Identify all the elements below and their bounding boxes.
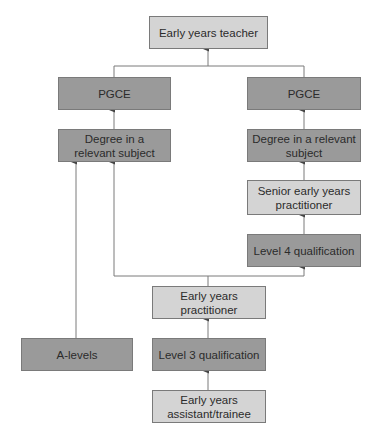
node-a-levels: A-levels <box>21 338 133 371</box>
connector-layer <box>0 0 379 445</box>
edge-practitioner-split <box>114 162 208 286</box>
node-pgce-right: PGCE <box>247 77 361 110</box>
edge-pgce-to-teacher <box>114 66 304 77</box>
node-early-years-practitioner: Early years practitioner <box>152 286 266 319</box>
node-degree-right: Degree in a relevant subject <box>247 129 361 162</box>
node-level4: Level 4 qualification <box>247 234 361 267</box>
node-degree-left: Degree in a relevant subject <box>58 129 171 162</box>
node-assistant-trainee: Early years assistant/trainee <box>152 390 266 423</box>
node-level3: Level 3 qualification <box>152 338 266 371</box>
node-early-years-teacher: Early years teacher <box>149 16 268 49</box>
edge-practitioner-to-level4 <box>208 267 304 276</box>
node-pgce-left: PGCE <box>58 77 171 110</box>
node-senior-practitioner: Senior early years practitioner <box>247 180 361 215</box>
